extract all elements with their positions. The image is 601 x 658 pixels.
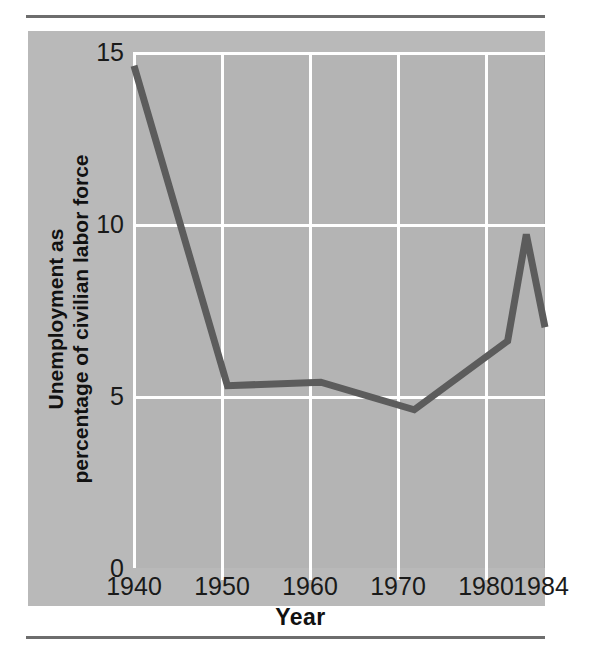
x-tick-1940: 1940: [106, 574, 162, 599]
bottom-rule: [26, 636, 545, 639]
x-tick-1980: 1980: [458, 574, 514, 599]
y-tick-5: 5: [110, 384, 124, 409]
y-axis-title-text: Unemployment as percentage of civilian l…: [43, 84, 93, 554]
figure-root: 15 10 5 0 1940 1950 1960 1970 1980 1984 …: [0, 0, 601, 658]
unemployment-line-path: [134, 66, 545, 410]
x-tick-1984: 1984: [513, 574, 569, 599]
x-axis-title: Year: [0, 604, 601, 631]
top-rule: [26, 15, 545, 18]
x-tick-1970: 1970: [370, 574, 426, 599]
plot-area: [134, 52, 545, 568]
x-tick-1960: 1960: [282, 574, 338, 599]
y-axis-title: Unemployment as percentage of civilian l…: [30, 31, 106, 606]
series-line: [134, 52, 545, 568]
x-tick-1950: 1950: [194, 574, 250, 599]
